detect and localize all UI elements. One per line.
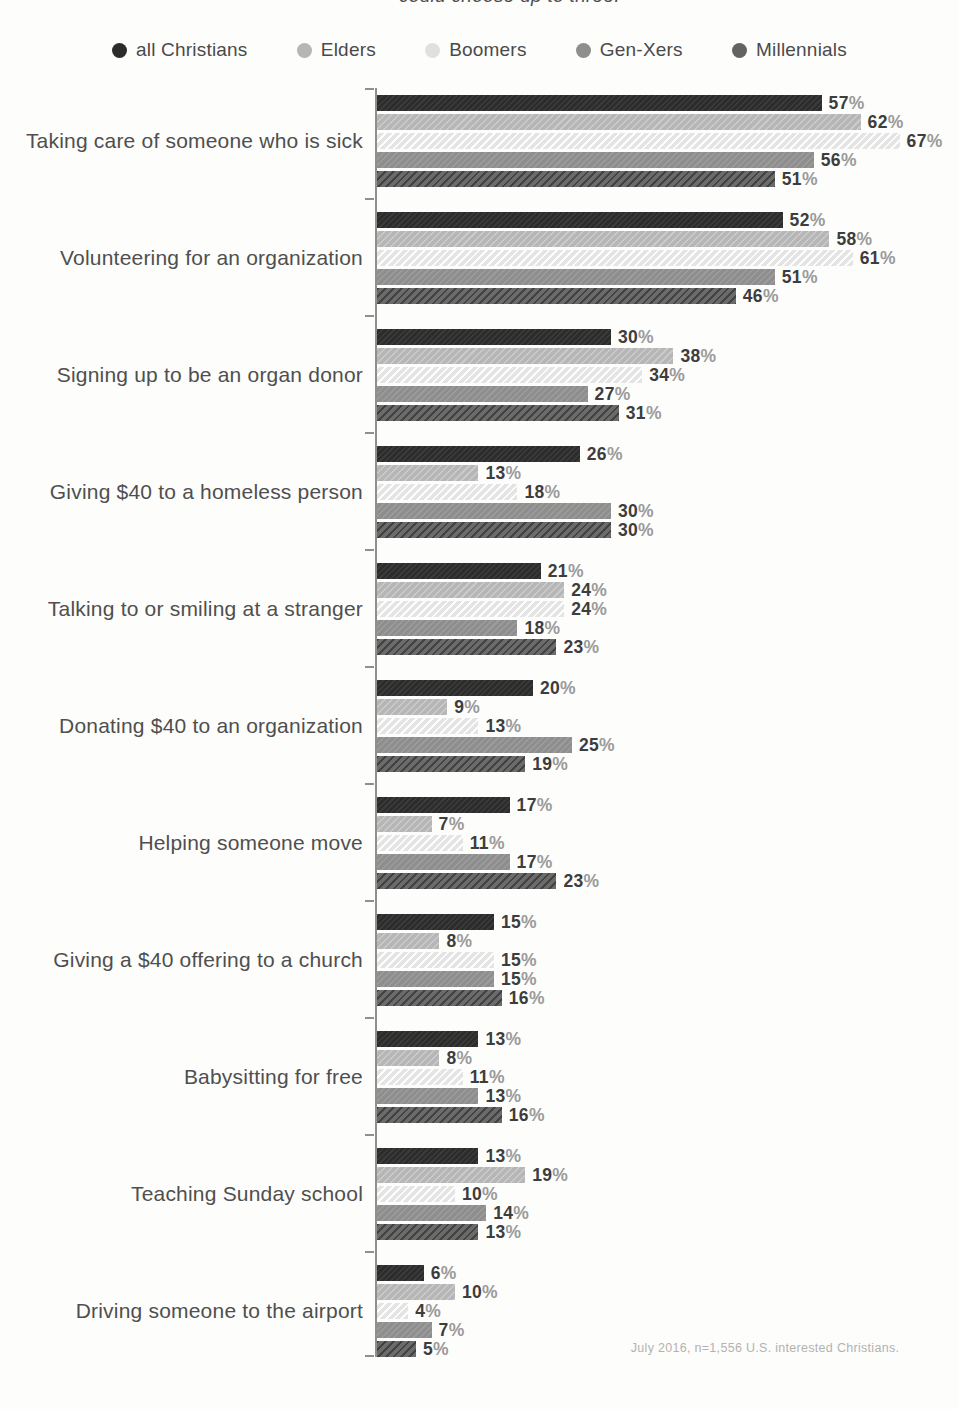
bar-gen-xers (377, 737, 572, 753)
legend-label: Elders (321, 39, 376, 61)
percent-sign: % (700, 346, 716, 366)
bar-all-christians (377, 680, 533, 696)
bar-boomers (377, 1069, 463, 1085)
bar-millennials (377, 639, 556, 655)
bar-row: 19% (377, 756, 935, 772)
percent-sign: % (482, 1282, 498, 1302)
bar-value-number: 18 (524, 618, 544, 638)
bar-row: 13% (377, 1088, 935, 1104)
percent-sign: % (521, 950, 537, 970)
bar-value-label: 18% (524, 482, 560, 503)
bar-value-number: 13 (485, 1146, 505, 1166)
bar-value-label: 15% (501, 950, 537, 971)
bar-value-label: 24% (571, 580, 607, 601)
bar-row: 4% (377, 1303, 935, 1319)
bar-gen-xers (377, 854, 510, 870)
category-label: Taking care of someone who is sick (3, 129, 363, 153)
percent-sign: % (456, 931, 472, 951)
percent-sign: % (505, 1222, 521, 1242)
bar-row: 24% (377, 601, 935, 617)
bar-row: 26% (377, 446, 935, 462)
bar-value-label: 26% (587, 444, 623, 465)
bar-millennials (377, 990, 502, 1006)
bar-value-number: 30 (618, 501, 638, 521)
bar-row: 10% (377, 1186, 935, 1202)
bar-value-label: 58% (836, 229, 872, 250)
bar-value-label: 23% (563, 871, 599, 892)
percent-sign: % (529, 1105, 545, 1125)
bar-row: 52% (377, 212, 935, 228)
bar-rows: 13%19%10%14%13% (377, 1148, 935, 1240)
axis-tick (365, 1134, 374, 1136)
percent-sign: % (669, 365, 685, 385)
bar-value-label: 21% (548, 561, 584, 582)
bar-gen-xers (377, 503, 611, 519)
bar-value-label: 38% (680, 346, 716, 367)
bar-row: 34% (377, 367, 935, 383)
axis-tick-bottom (365, 1355, 374, 1357)
bar-millennials (377, 756, 525, 772)
percent-sign: % (425, 1301, 441, 1321)
category-label: Driving someone to the airport (3, 1299, 363, 1323)
bar-all-christians (377, 446, 580, 462)
bar-row: 17% (377, 854, 935, 870)
bar-value-number: 26 (587, 444, 607, 464)
bar-rows: 15%8%15%15%16% (377, 914, 935, 1006)
bar-all-christians (377, 212, 783, 228)
bar-millennials (377, 171, 775, 187)
axis-tick (365, 783, 374, 785)
bar-value-label: 25% (579, 735, 615, 756)
source-note: July 2016, n=1,556 U.S. interested Chris… (600, 1341, 930, 1355)
bar-value-number: 46 (743, 286, 763, 306)
bar-value-number: 16 (509, 1105, 529, 1125)
percent-sign: % (489, 833, 505, 853)
percent-sign: % (441, 1263, 457, 1283)
percent-sign: % (810, 210, 826, 230)
bar-rows: 17%7%11%17%23% (377, 797, 935, 889)
bar-group-2: Volunteering for an organization52%58%61… (377, 212, 935, 304)
percent-sign: % (552, 1165, 568, 1185)
bar-gen-xers (377, 152, 814, 168)
percent-sign: % (552, 754, 568, 774)
bar-chart: Taking care of someone who is sick57%62%… (375, 88, 935, 1357)
bar-value-number: 6 (431, 1263, 441, 1283)
bar-row: 19% (377, 1167, 935, 1183)
chart-subtitle: could choose up to three. (0, 0, 959, 7)
bar-boomers (377, 484, 517, 500)
axis-tick (365, 315, 374, 317)
bar-value-label: 10% (462, 1184, 498, 1205)
bar-rows: 13%8%11%13%16% (377, 1031, 935, 1123)
bar-value-number: 30 (618, 327, 638, 347)
bar-value-number: 24 (571, 580, 591, 600)
bar-row: 15% (377, 914, 935, 930)
bar-boomers (377, 250, 853, 266)
bar-value-label: 57% (829, 93, 865, 114)
bar-row: 51% (377, 171, 935, 187)
bar-rows: 20%9%13%25%19% (377, 680, 935, 772)
bar-row: 17% (377, 797, 935, 813)
bar-elders (377, 816, 432, 832)
bar-boomers (377, 1186, 455, 1202)
bar-value-number: 13 (485, 1222, 505, 1242)
bar-all-christians (377, 1265, 424, 1281)
legend-dot-icon (732, 43, 747, 58)
bar-value-label: 17% (517, 852, 553, 873)
bar-value-number: 21 (548, 561, 568, 581)
bar-row: 15% (377, 952, 935, 968)
bar-millennials (377, 1224, 478, 1240)
axis-tick-top (365, 88, 374, 90)
bar-millennials (377, 522, 611, 538)
chart-legend: all ChristiansEldersBoomersGen-XersMille… (112, 36, 847, 64)
percent-sign: % (880, 248, 896, 268)
bar-value-label: 10% (462, 1282, 498, 1303)
bar-all-christians (377, 1148, 478, 1164)
bar-value-number: 25 (579, 735, 599, 755)
bar-all-christians (377, 914, 494, 930)
bar-value-number: 20 (540, 678, 560, 698)
bar-value-label: 7% (439, 814, 465, 835)
percent-sign: % (591, 599, 607, 619)
category-label: Volunteering for an organization (3, 246, 363, 270)
bar-value-label: 16% (509, 988, 545, 1009)
bar-value-number: 61 (860, 248, 880, 268)
bar-boomers (377, 1303, 408, 1319)
